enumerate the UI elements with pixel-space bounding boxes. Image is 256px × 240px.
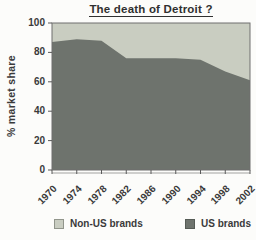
y-tick-label: 80 (5, 46, 45, 58)
non-us-brands-swatch (54, 219, 64, 229)
legend-label-non-us: Non-US brands (70, 218, 143, 229)
y-tick-label: 0 (5, 164, 45, 176)
y-tick-label: 100 (5, 17, 45, 29)
us-brands-swatch (185, 219, 195, 229)
y-tick-label: 20 (5, 135, 45, 147)
legend-label-us: US brands (201, 218, 251, 229)
legend-item-non-us: Non-US brands (54, 218, 143, 229)
legend-item-us: US brands (185, 218, 251, 229)
legend: Non-US brands US brands (54, 218, 251, 229)
y-tick-label: 60 (5, 76, 45, 88)
y-tick-label: 40 (5, 105, 45, 117)
chart-figure: The death of Detroit ? % market share 10… (0, 0, 256, 240)
